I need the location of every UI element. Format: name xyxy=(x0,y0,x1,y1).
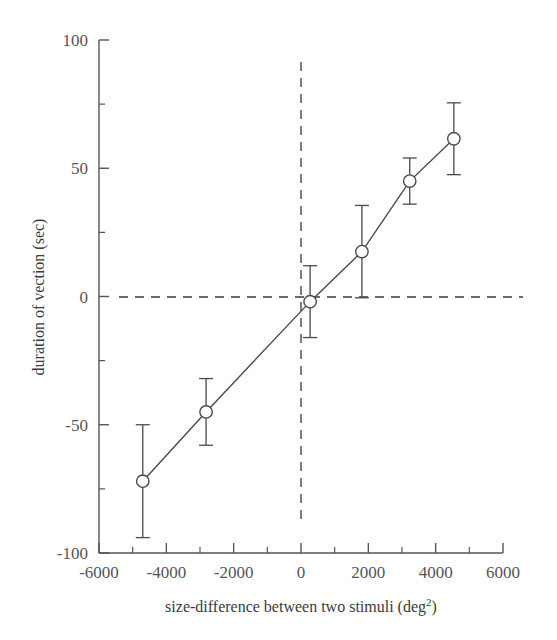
data-point-5 xyxy=(448,133,460,145)
y-tick-label-0: 0 xyxy=(80,288,89,307)
x-tick-label-4000: 4000 xyxy=(419,563,453,582)
vection-line-chart: 100500-50-100 -6000-4000-200002000400060… xyxy=(0,0,557,640)
y-tick-label-50: 50 xyxy=(71,159,88,178)
y-axis-title: duration of vection (sec) xyxy=(30,219,48,376)
x-tick-label-0: 0 xyxy=(297,563,306,582)
data-point-3 xyxy=(356,245,368,257)
x-tick-label-6000: 6000 xyxy=(486,563,520,582)
y-tick-label-100: 100 xyxy=(63,31,89,50)
x-tick-label--6000: -6000 xyxy=(79,563,119,582)
x-axis-title-tail: ) xyxy=(432,598,437,616)
figure-container: 100500-50-100 -6000-4000-200002000400060… xyxy=(0,0,557,640)
x-axis-title: size-difference between two stimuli (deg… xyxy=(165,596,437,616)
data-point-2 xyxy=(304,295,316,307)
x-tick-label--2000: -2000 xyxy=(214,563,254,582)
data-point-0 xyxy=(137,475,149,487)
y-tick-label--50: -50 xyxy=(65,416,88,435)
data-point-4 xyxy=(404,175,416,187)
x-tick-label-2000: 2000 xyxy=(351,563,385,582)
x-tick-label--4000: -4000 xyxy=(146,563,186,582)
data-point-1 xyxy=(200,406,212,418)
y-tick-label--100: -100 xyxy=(57,544,88,563)
x-axis-title-main: size-difference between two stimuli (deg xyxy=(165,598,426,616)
